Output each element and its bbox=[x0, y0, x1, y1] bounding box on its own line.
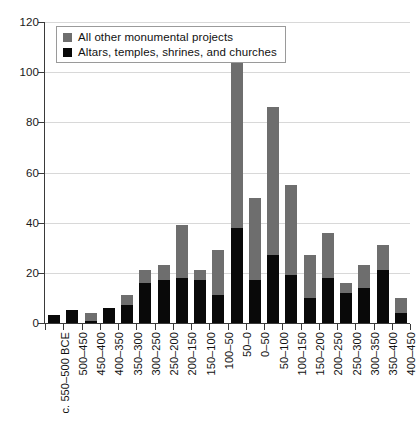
bar-segment-other-projects bbox=[304, 255, 316, 298]
y-tick-label: 100 bbox=[20, 66, 40, 78]
x-tick-label: 200–150 bbox=[186, 332, 198, 376]
legend-item: All other monumental projects bbox=[63, 31, 277, 43]
bar bbox=[85, 313, 97, 323]
bar bbox=[231, 52, 243, 323]
bar-segment-religious bbox=[322, 278, 334, 323]
x-tick-mark bbox=[118, 324, 119, 330]
x-tick-mark bbox=[100, 324, 101, 330]
x-tick-label: 100–50 bbox=[223, 332, 235, 369]
x-tick-mark bbox=[228, 324, 229, 330]
bar-segment-other-projects bbox=[358, 265, 370, 288]
x-tick-label: 400–350 bbox=[113, 332, 125, 376]
x-tick-label: 0–50 bbox=[259, 332, 271, 357]
x-tick-mark bbox=[319, 324, 320, 330]
bar-segment-religious bbox=[194, 280, 206, 323]
legend-swatch-gray-icon bbox=[63, 33, 72, 42]
legend-swatch-black-icon bbox=[63, 48, 72, 57]
stacked-bar-chart: 120100806040200 c. 550–500 BCE500–450450… bbox=[0, 0, 420, 421]
bar-segment-other-projects bbox=[194, 270, 206, 280]
bar bbox=[176, 225, 188, 323]
x-tick-mark bbox=[209, 324, 210, 330]
bar-segment-religious bbox=[176, 278, 188, 323]
y-tick-label: 0 bbox=[33, 317, 40, 329]
x-tick-label: 150–200 bbox=[314, 332, 326, 376]
x-tick-label: 450–400 bbox=[95, 332, 107, 376]
x-tick-label: 250–200 bbox=[168, 332, 180, 376]
x-tick-mark bbox=[136, 324, 137, 330]
chart-legend: All other monumental projects Altars, te… bbox=[56, 26, 286, 63]
bar bbox=[322, 233, 334, 323]
x-tick-label: 250–300 bbox=[351, 332, 363, 376]
bar-segment-religious bbox=[158, 280, 170, 323]
bar bbox=[212, 250, 224, 323]
bar-segment-religious bbox=[48, 315, 60, 323]
bars-group bbox=[45, 22, 410, 323]
bar-segment-other-projects bbox=[176, 225, 188, 278]
x-tick-label: 200–250 bbox=[332, 332, 344, 376]
bar-segment-other-projects bbox=[249, 198, 261, 281]
x-tick-mark bbox=[374, 324, 375, 330]
x-tick-mark bbox=[282, 324, 283, 330]
x-tick-mark bbox=[155, 324, 156, 330]
x-tick-mark bbox=[337, 324, 338, 330]
bar-segment-other-projects bbox=[285, 185, 297, 275]
bar bbox=[121, 295, 133, 323]
x-tick-mark bbox=[246, 324, 247, 330]
y-tick-label: 80 bbox=[26, 116, 39, 128]
bar-segment-other-projects bbox=[340, 283, 352, 293]
bar bbox=[267, 107, 279, 323]
x-tick-label: 500–450 bbox=[77, 332, 89, 376]
legend-label: All other monumental projects bbox=[78, 31, 233, 43]
bar-segment-religious bbox=[139, 283, 151, 323]
bar-segment-other-projects bbox=[322, 233, 334, 278]
bar-segment-other-projects bbox=[212, 250, 224, 295]
x-tick-label: c. 550–500 BCE bbox=[59, 332, 71, 414]
bar-segment-religious bbox=[249, 280, 261, 323]
bar-segment-religious bbox=[267, 255, 279, 323]
x-tick-label: 150–100 bbox=[205, 332, 217, 376]
x-tick-label: 100–150 bbox=[296, 332, 308, 376]
bar-segment-other-projects bbox=[158, 265, 170, 280]
bar-segment-other-projects bbox=[395, 298, 407, 313]
bar bbox=[194, 270, 206, 323]
x-tick-mark bbox=[264, 324, 265, 330]
bar bbox=[358, 265, 370, 323]
x-tick-label: 50–100 bbox=[278, 332, 290, 369]
bar bbox=[158, 265, 170, 323]
bar bbox=[285, 185, 297, 323]
x-tick-label: 350–300 bbox=[132, 332, 144, 376]
bar bbox=[340, 283, 352, 323]
bar bbox=[304, 255, 316, 323]
bar-segment-other-projects bbox=[139, 270, 151, 283]
bar-segment-other-projects bbox=[85, 313, 97, 321]
bar bbox=[377, 245, 389, 323]
bar bbox=[48, 315, 60, 323]
x-tick-label: 400–450 bbox=[405, 332, 417, 376]
x-tick-mark bbox=[82, 324, 83, 330]
legend-item: Altars, temples, shrines, and churches bbox=[63, 46, 277, 58]
bar-segment-religious bbox=[395, 313, 407, 323]
bar-segment-religious bbox=[358, 288, 370, 323]
bar bbox=[66, 310, 78, 323]
bar-segment-religious bbox=[85, 321, 97, 324]
bar-segment-religious bbox=[121, 305, 133, 323]
x-axis-ticks bbox=[45, 324, 410, 330]
y-tick-label: 120 bbox=[20, 16, 40, 28]
y-tick-label: 40 bbox=[26, 217, 39, 229]
x-axis-labels: c. 550–500 BCE500–450450–400400–350350–3… bbox=[45, 332, 410, 418]
bar-segment-religious bbox=[103, 308, 115, 323]
x-tick-mark bbox=[355, 324, 356, 330]
x-tick-mark bbox=[191, 324, 192, 330]
bar-segment-other-projects bbox=[121, 295, 133, 305]
bar-segment-religious bbox=[285, 275, 297, 323]
bar-segment-religious bbox=[231, 228, 243, 323]
bar-segment-religious bbox=[212, 295, 224, 323]
x-tick-mark bbox=[173, 324, 174, 330]
bar-segment-other-projects bbox=[267, 107, 279, 255]
legend-label: Altars, temples, shrines, and churches bbox=[78, 46, 277, 58]
x-tick-mark bbox=[392, 324, 393, 330]
bar bbox=[103, 308, 115, 323]
x-tick-label: 300–350 bbox=[369, 332, 381, 376]
bar-segment-religious bbox=[66, 310, 78, 323]
bar bbox=[249, 198, 261, 323]
